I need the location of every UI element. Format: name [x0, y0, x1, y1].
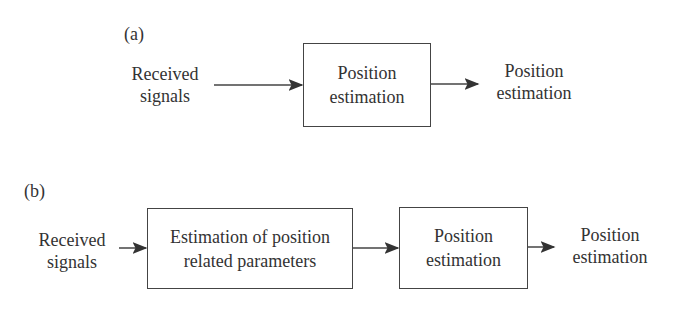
a-block-line1: Position — [337, 61, 396, 85]
a-block-line2: estimation — [330, 85, 405, 109]
b-output-line2: estimation — [560, 246, 660, 268]
b-output-line1: Position — [560, 224, 660, 246]
label-b: (b) — [24, 181, 45, 202]
a-output-line2: estimation — [484, 82, 584, 104]
b-input-line1: Received — [28, 229, 116, 251]
b-parameter-estimation-block: Estimation of position related parameter… — [147, 208, 353, 289]
a-output-text: Position estimation — [484, 60, 584, 104]
b-input-text: Received signals — [28, 229, 116, 273]
b-output-text: Position estimation — [560, 224, 660, 268]
b-block2-line2: estimation — [426, 248, 501, 272]
b-block2-line1: Position — [434, 224, 493, 248]
a-position-estimation-block: Position estimation — [303, 43, 431, 127]
b-block1-line2: related parameters — [184, 249, 316, 273]
a-input-line1: Received — [120, 63, 210, 85]
b-position-estimation-block: Position estimation — [399, 207, 528, 289]
a-input-line2: signals — [120, 85, 210, 107]
b-input-line2: signals — [28, 251, 116, 273]
b-block1-line1: Estimation of position — [170, 225, 330, 249]
a-input-text: Received signals — [120, 63, 210, 107]
a-output-line1: Position — [484, 60, 584, 82]
label-a: (a) — [124, 24, 144, 45]
